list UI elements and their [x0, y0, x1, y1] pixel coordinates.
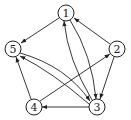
edge-1-to-5 [21, 18, 59, 43]
node-3-label: 3 [94, 101, 101, 114]
node-2-label: 2 [114, 43, 121, 56]
node-3: 3 [89, 99, 105, 115]
edge-3-to-1 [64, 21, 92, 100]
edge-4-to-5 [16, 57, 31, 99]
edge-4-to-2 [40, 54, 110, 101]
node-5-label: 5 [10, 43, 17, 56]
node-1-label: 1 [63, 7, 70, 20]
directed-graph: 1 2 3 4 5 [0, 0, 131, 120]
edge-2-to-3 [100, 57, 114, 99]
node-1: 1 [58, 5, 74, 21]
edge-1-to-3 [70, 20, 96, 99]
node-2: 2 [109, 41, 125, 57]
node-4-label: 4 [31, 101, 38, 114]
edge-2-to-1 [74, 18, 110, 44]
node-4: 4 [26, 99, 42, 115]
node-5: 5 [5, 41, 21, 57]
